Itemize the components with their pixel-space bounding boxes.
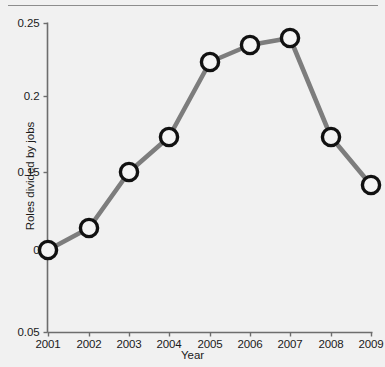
- data-point-marker: [160, 128, 177, 145]
- chart-figure: 0.250.20.1500.05 20012002200320042005200…: [0, 0, 385, 367]
- data-point-marker: [201, 53, 218, 70]
- y-axis-title: Roles divided by jobs: [24, 86, 36, 266]
- x-tick-label: 2002: [76, 338, 101, 350]
- series-markers: [39, 29, 379, 258]
- x-tick-label: 2005: [197, 338, 222, 350]
- data-point-marker: [281, 29, 298, 46]
- data-point-marker: [39, 241, 56, 258]
- x-tick-label: 2008: [318, 338, 343, 350]
- x-tick-label: 2001: [35, 338, 60, 350]
- data-point-marker: [80, 219, 97, 236]
- x-tick-label: 2006: [237, 338, 262, 350]
- data-point-marker: [241, 36, 258, 53]
- line-chart-svg: [0, 0, 385, 367]
- data-point-marker: [120, 163, 137, 180]
- x-tick-label: 2007: [277, 338, 302, 350]
- x-tick-label: 2009: [358, 338, 383, 350]
- data-series-group: [39, 29, 379, 258]
- data-point-marker: [322, 128, 339, 145]
- x-axis-title: Year: [0, 349, 385, 361]
- x-tick-label: 2004: [156, 338, 181, 350]
- y-tick-label: 0.25: [0, 17, 40, 29]
- y-tick-label: 0.05: [0, 326, 40, 338]
- plot-area: 0.250.20.1500.05 20012002200320042005200…: [0, 0, 385, 367]
- data-point-marker: [362, 176, 379, 193]
- x-tick-label: 2003: [116, 338, 141, 350]
